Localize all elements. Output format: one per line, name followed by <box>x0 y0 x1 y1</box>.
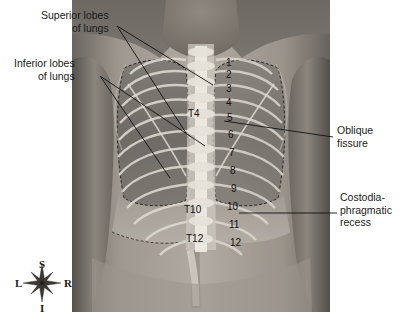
rib-number-7: 7 <box>229 148 235 158</box>
label-line-2: of lungs <box>14 70 75 83</box>
label-line-2: of lungs <box>41 22 109 35</box>
label-line-2: fissure <box>337 137 373 150</box>
label-superior-lobes-of-lungs: Superior lobes of lungs <box>41 9 109 34</box>
radiograph-photo <box>72 0 330 312</box>
rib-number-11: 11 <box>229 220 239 230</box>
thorax-figure <box>0 0 406 328</box>
vertebra-label-t10: T10 <box>184 205 201 215</box>
label-line-1: Costodia- <box>340 191 392 204</box>
compass-label-right: R <box>64 278 72 289</box>
label-line-1: Oblique <box>337 124 373 137</box>
label-line-1: Inferior lobes <box>14 57 75 70</box>
label-line-3: recess <box>340 216 392 229</box>
rib-number-9: 9 <box>231 184 237 194</box>
compass-label-left: L <box>15 278 22 289</box>
rib-number-6: 6 <box>228 130 234 140</box>
rib-number-2: 2 <box>226 70 232 80</box>
rib-number-5: 5 <box>227 113 233 123</box>
vertebra-label-t12: T12 <box>186 234 203 244</box>
rib-number-8: 8 <box>230 166 236 176</box>
rib-number-1: 1 <box>226 58 232 68</box>
label-costodiaphragmatic-recess: Costodia- phragmatic recess <box>340 191 392 229</box>
compass-label-superior: S <box>39 259 45 270</box>
vertebra-label-t4: T4 <box>188 109 200 119</box>
label-line-1: Superior lobes <box>41 9 109 22</box>
label-inferior-lobes-of-lungs: Inferior lobes of lungs <box>14 57 75 82</box>
label-oblique-fissure: Oblique fissure <box>337 124 373 149</box>
label-line-2: phragmatic <box>340 204 392 217</box>
rib-number-12: 12 <box>230 238 241 248</box>
rib-number-3: 3 <box>226 84 232 94</box>
rib-number-4: 4 <box>226 98 232 108</box>
compass-label-inferior: I <box>40 303 44 314</box>
rib-number-10: 10 <box>227 202 238 212</box>
